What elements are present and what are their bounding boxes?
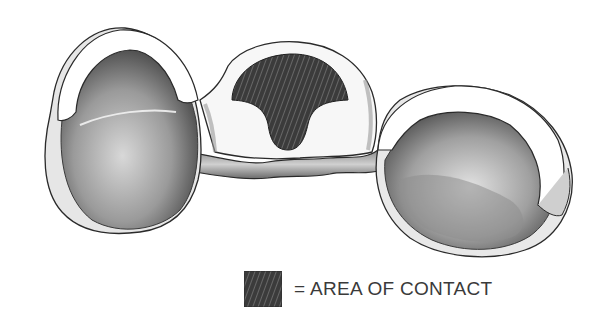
legend-label: = AREA OF CONTACT [294, 278, 492, 300]
right-abutment-crown [376, 86, 572, 257]
left-abutment-crown [45, 28, 201, 233]
legend: = AREA OF CONTACT [244, 271, 492, 307]
contact-area-swatch [244, 271, 282, 307]
pontic [200, 42, 377, 159]
